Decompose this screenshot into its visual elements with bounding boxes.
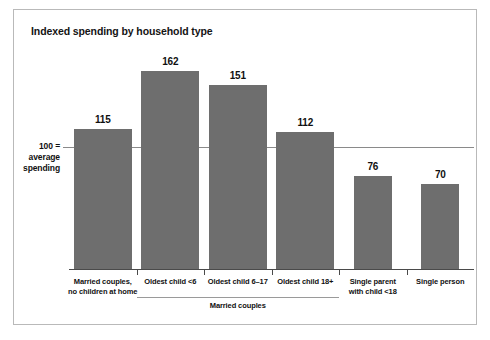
y-axis-reference-label: 100 = average spending bbox=[14, 141, 60, 174]
bar bbox=[209, 85, 267, 269]
plot-area: 100 = average spending 1151621511127670 … bbox=[14, 10, 476, 324]
category-label-line: Single person bbox=[403, 277, 479, 287]
axis-tick bbox=[339, 269, 340, 275]
axis-tick bbox=[272, 269, 273, 275]
category-label-line: with child <18 bbox=[335, 287, 411, 297]
chart-figure: Indexed spending by household type 100 =… bbox=[13, 9, 477, 325]
group-bracket-line bbox=[137, 297, 340, 298]
y-axis-reference-line1: 100 = bbox=[14, 141, 60, 152]
category-label: Single parentwith child <18 bbox=[335, 277, 411, 297]
bar bbox=[354, 176, 392, 269]
group-bracket-label: Married couples bbox=[137, 301, 340, 310]
category-label: Oldest child 6–17 bbox=[200, 277, 276, 287]
bar bbox=[421, 184, 459, 269]
axis-tick bbox=[204, 269, 205, 275]
axis-tick bbox=[407, 269, 408, 275]
bar-value-label: 70 bbox=[410, 169, 470, 180]
category-label-line: no children at home bbox=[65, 287, 141, 297]
y-axis-reference-line2: average bbox=[14, 152, 60, 163]
category-label: Oldest child 18+ bbox=[268, 277, 344, 287]
bar-value-label: 151 bbox=[208, 70, 268, 81]
category-label: Single person bbox=[403, 277, 479, 287]
category-label: Oldest child <6 bbox=[133, 277, 209, 287]
bar bbox=[74, 129, 132, 269]
category-label-line: Married couples, bbox=[65, 277, 141, 287]
category-label: Married couples,no children at home bbox=[65, 277, 141, 297]
category-label-line: Oldest child <6 bbox=[133, 277, 209, 287]
category-label-line: Oldest child 18+ bbox=[268, 277, 344, 287]
bar-value-label: 115 bbox=[73, 114, 133, 125]
category-label-line: Single parent bbox=[335, 277, 411, 287]
y-axis-reference-line3: spending bbox=[14, 163, 60, 174]
bar bbox=[276, 132, 334, 269]
axis-tick bbox=[137, 269, 138, 275]
category-label-line: Oldest child 6–17 bbox=[200, 277, 276, 287]
bar-value-label: 162 bbox=[140, 56, 200, 67]
bar-value-label: 112 bbox=[275, 117, 335, 128]
bar-value-label: 76 bbox=[343, 161, 403, 172]
bar bbox=[141, 71, 199, 269]
